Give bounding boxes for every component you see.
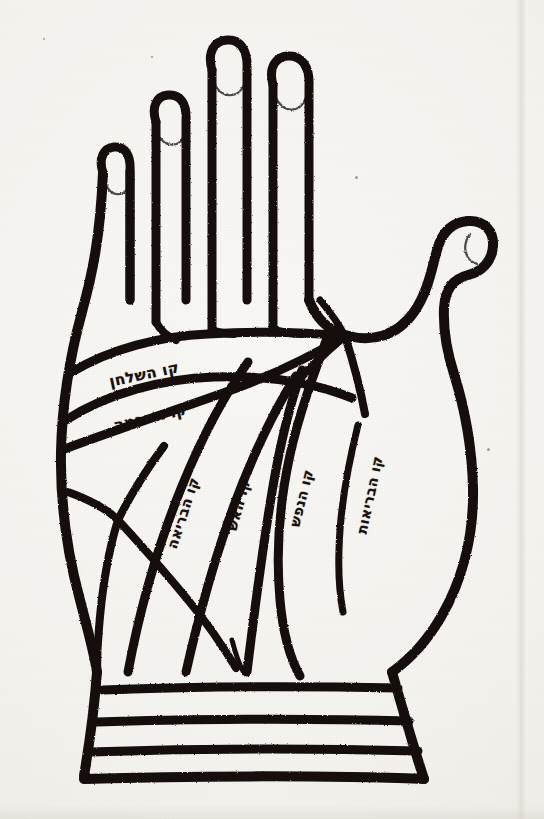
hand-diagram-artwork <box>0 0 544 819</box>
middle-finger-nail <box>214 82 245 95</box>
fingernails <box>106 82 477 264</box>
web-fan-line-2 <box>345 336 365 414</box>
index-base-crease <box>273 330 302 334</box>
branch-upper-right <box>118 446 164 520</box>
wrist-bracelet-line-2 <box>97 719 409 722</box>
thumb-nail <box>465 234 477 264</box>
scanned-page: קו השלחן קו החכמה קו הבריאה קו האש קו הנ… <box>0 0 544 819</box>
middle-base-crease <box>212 330 234 334</box>
wrist-bracelet-line-3 <box>90 749 418 752</box>
wrist-bottom-edge <box>84 776 424 779</box>
branch-from-ulnar-edge <box>68 492 118 520</box>
branch-lower-left <box>97 520 118 672</box>
index-finger-nail <box>276 97 306 110</box>
wrist-bracelet-line-1 <box>103 687 398 690</box>
thumb-and-radial-edge <box>309 221 493 672</box>
inner-thumb-ball-line <box>339 425 358 612</box>
ring-finger-nail <box>158 133 185 145</box>
